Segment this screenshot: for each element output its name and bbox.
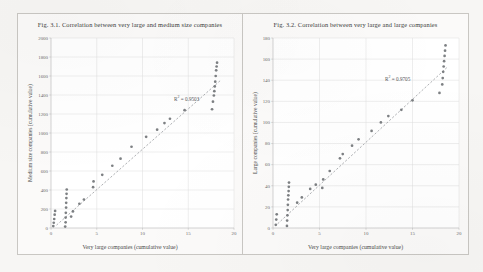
x-axis-tick-label: 15 (186, 231, 191, 236)
r2-value-1: = 0.9503 (179, 96, 199, 102)
data-point (400, 108, 403, 111)
data-point (443, 55, 446, 58)
data-point (65, 197, 68, 200)
data-point (169, 117, 172, 120)
r2-value-2: = 0.9705 (390, 76, 410, 82)
data-point (130, 145, 133, 148)
data-point (287, 203, 290, 206)
y-axis-tick-label: 0 (268, 226, 271, 231)
data-point (101, 173, 104, 176)
data-point (156, 128, 159, 131)
data-point (64, 211, 67, 214)
data-point (321, 187, 324, 190)
x-axis-title-1: Very large companies (cumulative value) (18, 244, 242, 250)
y-axis-tick-label: 120 (263, 99, 271, 104)
data-point (111, 164, 114, 167)
y-axis-tick-label: 600 (41, 169, 49, 174)
figures-row: Fig. 3.1. Correlation between very large… (17, 13, 469, 255)
scatter-chart-2: 02040608010012014016018005101520 (243, 14, 469, 256)
x-axis-tick-label: 15 (410, 231, 415, 236)
y-axis-tick-label: 0 (46, 226, 49, 231)
data-point (214, 75, 217, 78)
data-point (72, 210, 75, 213)
data-point (145, 135, 148, 138)
data-point (52, 225, 55, 228)
data-point (357, 138, 360, 141)
data-point (64, 216, 67, 219)
y-axis-tick-label: 1200 (38, 112, 48, 117)
data-point (54, 210, 57, 213)
data-point (183, 109, 186, 112)
data-point (92, 180, 95, 183)
x-axis-title-2: Very large companies (cumulative value) (243, 244, 468, 250)
data-point (309, 188, 312, 191)
data-point (78, 202, 81, 205)
data-point (52, 221, 55, 224)
data-point (64, 221, 67, 224)
plot-area-2: 02040608010012014016018005101520 (243, 14, 468, 254)
data-point (214, 80, 217, 83)
y-axis-tick-label: 160 (263, 57, 271, 62)
data-point (215, 69, 218, 72)
data-point (351, 144, 354, 147)
y-axis-title-1: Medium size companies (cumulative value) (27, 84, 33, 182)
data-point (274, 223, 277, 226)
data-point (411, 99, 414, 102)
data-point (442, 70, 445, 73)
data-point (441, 83, 444, 86)
y-axis-tick-label: 100 (263, 120, 271, 125)
data-point (339, 157, 342, 160)
data-point (444, 44, 447, 47)
figure-panel-fig-3-1: Fig. 3.1. Correlation between very large… (17, 13, 243, 255)
data-point (288, 181, 291, 184)
x-axis-tick-label: 5 (318, 231, 321, 236)
data-point (287, 198, 290, 201)
data-point (64, 225, 67, 228)
chart-2-render: 02040608010012014016018005101520 (263, 36, 462, 236)
data-point (213, 85, 216, 88)
data-point (286, 219, 289, 222)
y-axis-tick-label: 180 (263, 36, 271, 41)
figure-panel-fig-3-2: Fig. 3.2. Correlation between very large… (243, 13, 469, 255)
data-point (441, 77, 444, 80)
y-axis-tick-label: 1000 (38, 131, 48, 136)
data-point (286, 225, 289, 228)
data-point (65, 201, 68, 204)
x-axis-tick-label: 0 (50, 231, 53, 236)
data-point (215, 65, 218, 68)
data-point (442, 65, 445, 68)
data-point (438, 92, 441, 95)
y-axis-tick-label: 1600 (38, 74, 48, 79)
data-point (287, 190, 290, 193)
data-point (314, 183, 317, 186)
data-point (212, 100, 215, 103)
data-point (387, 115, 390, 118)
y-axis-tick-label: 140 (263, 78, 271, 83)
data-point (370, 130, 373, 133)
x-axis-tick-label: 20 (457, 231, 462, 236)
data-point (328, 170, 331, 173)
data-point (286, 209, 289, 212)
x-axis-tick-label: 5 (96, 231, 99, 236)
data-point (83, 198, 86, 201)
data-point (216, 61, 219, 64)
data-point (287, 194, 290, 197)
x-axis-tick-label: 10 (364, 231, 369, 236)
x-axis-tick-label: 10 (140, 231, 145, 236)
data-point (70, 215, 73, 218)
plot-area-1: 0200400600800100012001400160018002000051… (18, 14, 242, 254)
x-axis-tick-label: 20 (232, 231, 237, 236)
data-point (341, 153, 344, 156)
data-point (213, 94, 216, 97)
y-axis-tick-label: 800 (41, 150, 49, 155)
data-point (380, 121, 383, 124)
y-axis-tick-label: 20 (265, 205, 270, 210)
data-point (53, 218, 56, 221)
data-point (92, 186, 95, 189)
data-point (287, 185, 290, 188)
y-axis-tick-label: 200 (41, 207, 49, 212)
data-point (163, 122, 166, 125)
x-axis-tick-label: 0 (272, 231, 275, 236)
data-point (322, 178, 325, 181)
y-axis-tick-label: 40 (265, 184, 270, 189)
